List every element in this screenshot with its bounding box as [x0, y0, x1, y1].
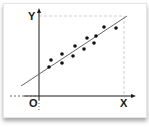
data-point [60, 61, 64, 65]
x-axis-arrow-icon [131, 94, 136, 98]
data-point [85, 36, 89, 40]
data-point [102, 25, 106, 29]
y-axis-arrow-icon [37, 8, 41, 13]
data-point [47, 65, 51, 69]
data-point [92, 41, 96, 45]
data-point [60, 52, 64, 56]
data-point [71, 54, 75, 58]
regression-line [21, 16, 127, 86]
data-point [114, 26, 118, 30]
data-point [49, 58, 53, 62]
data-point [94, 34, 98, 38]
origin-label: O [29, 98, 38, 109]
data-point [82, 47, 86, 51]
y-axis-label: Y [28, 11, 35, 22]
data-point [73, 44, 77, 48]
x-axis-label: X [120, 98, 127, 109]
